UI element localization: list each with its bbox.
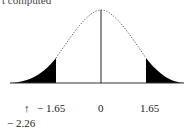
tick-right-critical: 1.65 — [140, 102, 159, 114]
tick-left-critical: − 1.65 — [37, 102, 65, 114]
right-rejection-region — [146, 58, 184, 83]
computed-value-label: − 2.26 — [7, 117, 35, 129]
tick-center: 0 — [98, 102, 104, 114]
normal-curve-chart — [0, 0, 194, 135]
left-rejection-region — [10, 58, 56, 83]
arrow-marker: ↑ — [24, 102, 30, 114]
